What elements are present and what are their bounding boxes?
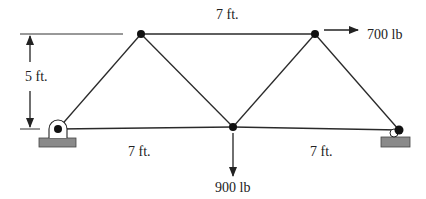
- left-pin-support: [39, 120, 76, 147]
- node-C: [229, 123, 237, 131]
- node-D: [311, 30, 319, 38]
- truss-members: [58, 34, 399, 130]
- truss-diagram: 5 ft. 700 lb 900 lb 7 ft. 7 ft. 7 ft.: [0, 0, 426, 199]
- node-B: [137, 30, 145, 38]
- node-E: [395, 126, 404, 135]
- member-BC: [141, 34, 233, 127]
- top-span-label: 7 ft.: [216, 7, 239, 22]
- height-label: 5 ft.: [25, 69, 48, 84]
- load-label-700lb: 700 lb: [367, 27, 402, 42]
- bottom-left-span-label: 7 ft.: [128, 144, 151, 159]
- left-support-base: [39, 138, 76, 147]
- member-CD: [233, 34, 315, 127]
- member-AC: [58, 127, 233, 129]
- member-CE: [233, 127, 399, 130]
- member-DE: [315, 34, 399, 130]
- bottom-right-span-label: 7 ft.: [310, 144, 333, 159]
- right-support-base: [381, 137, 410, 147]
- load-label-900lb: 900 lb: [215, 180, 250, 195]
- node-A: [54, 125, 62, 133]
- truss-nodes: [54, 30, 404, 135]
- member-AB: [58, 34, 141, 129]
